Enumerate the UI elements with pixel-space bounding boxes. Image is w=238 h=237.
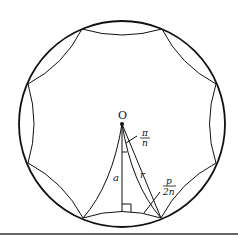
side-top-right xyxy=(162,29,216,84)
side-right xyxy=(210,84,217,163)
side-bottom-left xyxy=(28,163,83,218)
radius-label: r xyxy=(140,169,146,180)
right-angle-marker xyxy=(122,204,131,212)
center-point xyxy=(120,122,124,126)
polygon-in-circle-diagram: O π n a r p 2n xyxy=(0,0,238,237)
half-side-fraction-label: p 2n xyxy=(162,176,176,197)
apothem-label: a xyxy=(113,172,119,183)
side-top xyxy=(82,29,162,35)
angle-numerator: π xyxy=(141,128,149,138)
half-side-denominator: 2n xyxy=(162,187,175,197)
side-top-left xyxy=(28,29,82,84)
left-curved-edge xyxy=(83,124,122,218)
angle-fraction-label: π n xyxy=(140,128,150,148)
center-label: O xyxy=(118,109,127,122)
side-bottom xyxy=(83,212,161,219)
side-left xyxy=(28,84,34,163)
half-side-numerator: p xyxy=(166,176,172,186)
angle-denominator: n xyxy=(142,138,148,148)
